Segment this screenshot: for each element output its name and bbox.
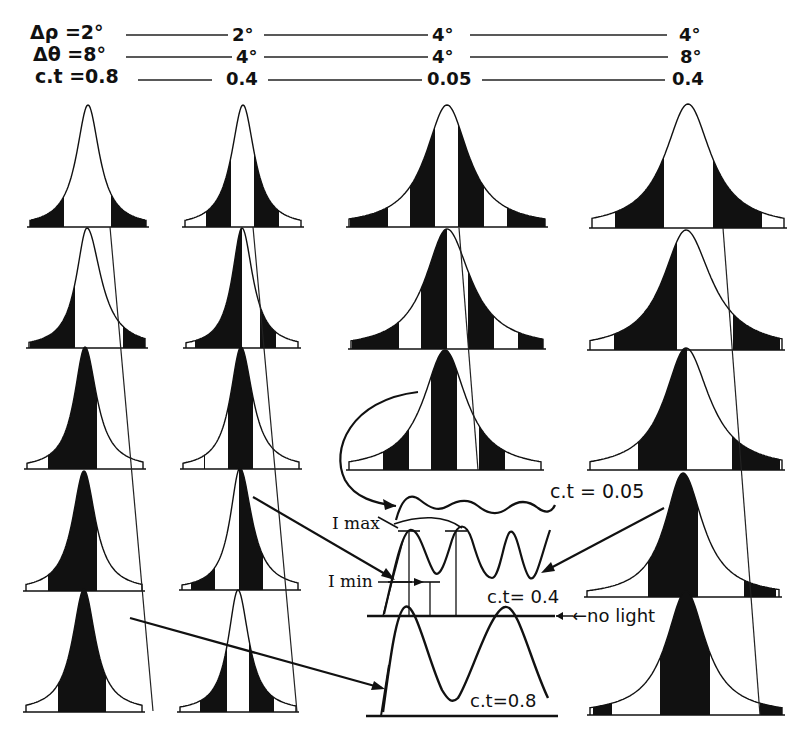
annotation-ct-005: c.t = 0.05	[550, 482, 644, 501]
intensity-profile	[180, 342, 302, 469]
annotation-ct-04: c.t= 0.4	[487, 588, 559, 606]
intensity-profile	[589, 99, 787, 228]
intensity-profile	[587, 225, 785, 350]
intensity-profile	[24, 342, 146, 469]
intensity-profile	[183, 223, 301, 348]
wave-ct-005	[396, 497, 555, 520]
intensity-profile	[587, 343, 785, 470]
intensity-profile	[26, 223, 150, 348]
intensity-profile	[179, 463, 301, 590]
intensity-profile	[348, 224, 546, 349]
intensity-profile	[346, 100, 548, 227]
intensity-profile	[182, 100, 304, 227]
intensity-profile	[346, 345, 544, 470]
pointer-arrows	[130, 392, 664, 690]
intensity-profile	[23, 584, 145, 712]
intensity-profile	[23, 466, 145, 591]
moire-profile-figure	[0, 0, 809, 737]
annotation-no-light: ←no light	[572, 607, 655, 625]
header-connector-lines	[126, 35, 668, 80]
annotation-i-max: I max	[332, 515, 380, 532]
intensity-profile	[27, 100, 150, 227]
annotation-ct-08: c.t=0.8	[470, 692, 536, 710]
annotation-i-min: I min	[328, 573, 373, 590]
intensity-profiles	[23, 99, 787, 715]
imax-arc	[394, 518, 462, 528]
